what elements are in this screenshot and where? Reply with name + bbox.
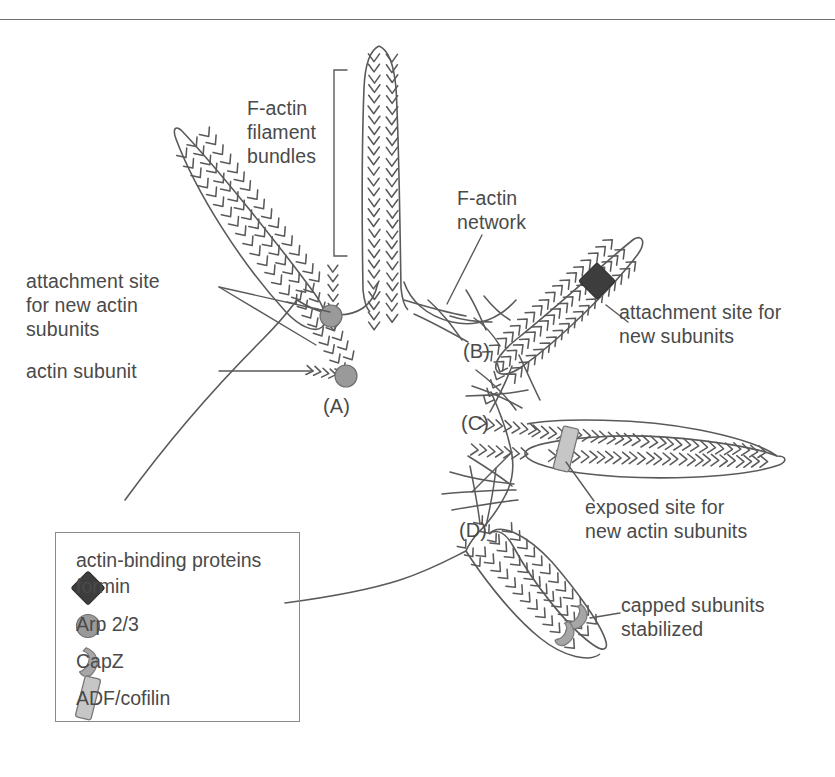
label-capped-subunits: capped subunits stabilized <box>621 593 765 641</box>
marker-d: (D) <box>459 518 487 542</box>
arp23-symbol-upper <box>320 305 342 327</box>
filopodium-d <box>466 529 606 657</box>
label-exposed-site: exposed site for new actin subunits <box>585 495 747 543</box>
f-actin-network <box>404 290 528 526</box>
label-f-actin-bundles: F-actin filament bundles <box>247 96 316 168</box>
arp23-symbol-lower <box>335 365 357 387</box>
formin-symbol <box>579 263 616 300</box>
label-actin-subunit: actin subunit <box>26 359 137 383</box>
legend-label-adf-cofilin: ADF/cofilin <box>76 687 170 710</box>
adf-cofilin-symbol <box>553 426 579 473</box>
label-attachment-site-left: attachment site for new actin subunits <box>26 269 160 341</box>
marker-c: (C) <box>461 411 489 435</box>
label-attachment-site-right: attachment site for new subunits <box>619 300 781 348</box>
legend-label-arp23: Arp 2/3 <box>76 613 139 636</box>
marker-a: (A) <box>323 394 350 418</box>
label-f-actin-network: F-actin network <box>457 186 526 234</box>
legend-label-formin: formin <box>76 575 130 598</box>
bundle-bracket <box>334 70 347 256</box>
marker-b: (B) <box>463 339 490 363</box>
legend-label-capz: CapZ <box>76 650 124 673</box>
legend-title: actin-binding proteins <box>76 549 261 572</box>
